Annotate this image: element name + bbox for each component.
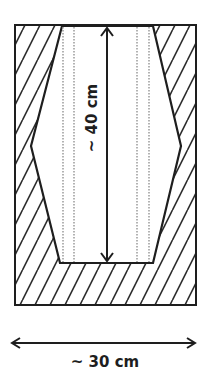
- width-dimension: ~ 30 cm: [12, 338, 195, 371]
- height-label: ~ 40 cm: [83, 84, 101, 152]
- hexagonal-cavity-diagram: ~ 40 cm ~ 30 cm: [0, 0, 210, 386]
- width-label: ~ 30 cm: [71, 353, 139, 371]
